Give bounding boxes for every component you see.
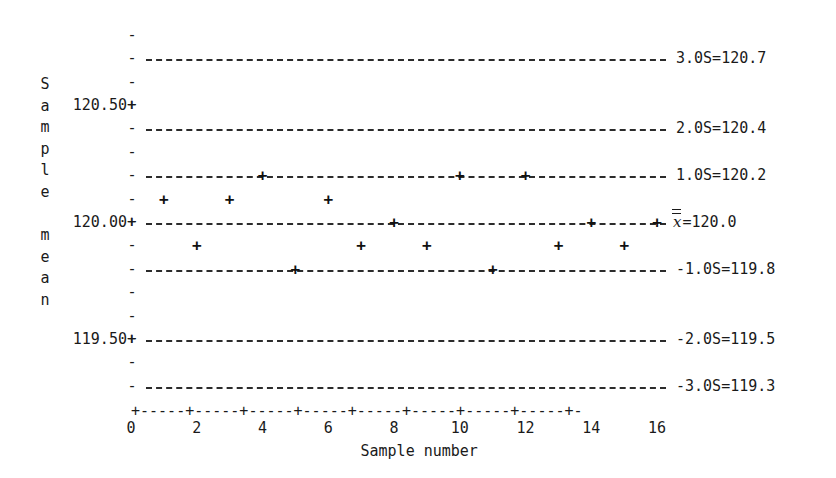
x-double-bar-symbol: x	[672, 215, 682, 230]
y-axis-title-char: e	[34, 247, 56, 269]
x-axis-tick-label: 0	[119, 421, 143, 436]
y-axis-minor-tick: -	[126, 192, 138, 207]
x-axis-title: Sample number	[0, 444, 836, 459]
limit-line-minus-1-sigma	[146, 270, 666, 274]
limit-label-plus-2-sigma: 2.0S=120.4	[676, 121, 766, 136]
data-point: +	[289, 262, 301, 278]
x-axis-tick-label: 2	[185, 421, 209, 436]
limit-line-minus-3-sigma	[146, 387, 666, 391]
data-point: +	[257, 168, 269, 184]
x-axis-tick-label: 10	[448, 421, 472, 436]
y-axis-title-char: m	[34, 117, 56, 139]
y-axis-title-char: l	[34, 160, 56, 182]
y-axis-tick-label: 120.50+	[66, 98, 136, 113]
y-axis-title-char: p	[34, 139, 56, 161]
y-axis-minor-tick: -	[126, 145, 138, 160]
data-point: +	[487, 262, 499, 278]
y-axis-minor-tick: -	[126, 309, 138, 324]
y-axis-title-char: S	[34, 74, 56, 96]
y-axis-minor-tick: -	[126, 355, 138, 370]
x-axis-tick-label: 14	[579, 421, 603, 436]
y-axis-title-char: m	[34, 225, 56, 247]
data-point: +	[585, 215, 597, 231]
y-axis-minor-tick: -	[126, 75, 138, 90]
x-axis-tick-label: 4	[251, 421, 275, 436]
x-axis-line: +-----+-----+-----+-----+-----+-----+---…	[131, 404, 583, 419]
y-axis-minor-tick: -	[126, 28, 138, 43]
limit-line-plus-1-sigma	[146, 176, 666, 180]
limit-label-minus-1-sigma: -1.0S=119.8	[676, 262, 775, 277]
y-axis-title-char: a	[34, 96, 56, 118]
limit-line-plus-3-sigma	[146, 59, 666, 63]
x-axis-tick-label: 12	[514, 421, 538, 436]
data-point: +	[421, 238, 433, 254]
data-point: +	[388, 215, 400, 231]
data-point: +	[552, 238, 564, 254]
control-chart: Sample mean ---+----+----+-- 120.50+120.…	[0, 0, 836, 478]
data-point: +	[158, 192, 170, 208]
y-axis-title-char	[34, 204, 56, 226]
limit-label-plus-3-sigma: 3.0S=120.7	[676, 51, 766, 66]
data-point: +	[618, 238, 630, 254]
limit-label-plus-1-sigma: 1.0S=120.2	[676, 168, 766, 183]
y-axis-title-char: e	[34, 182, 56, 204]
y-axis-minor-tick: -	[126, 379, 138, 394]
y-axis-minor-tick: -	[126, 168, 138, 183]
data-point: +	[322, 192, 334, 208]
limit-label-minus-3-sigma: -3.0S=119.3	[676, 379, 775, 394]
y-axis-minor-tick: -	[126, 238, 138, 253]
limit-label-text: =120.0	[682, 213, 736, 231]
data-point: +	[191, 238, 203, 254]
y-axis-title-char: n	[34, 290, 56, 312]
y-axis-title: Sample mean	[34, 74, 56, 312]
data-point: +	[454, 168, 466, 184]
limit-label-center-line: x=120.0	[672, 215, 737, 230]
data-point: +	[224, 192, 236, 208]
y-axis-minor-tick: -	[126, 121, 138, 136]
limit-line-minus-2-sigma	[146, 340, 666, 344]
data-point: +	[355, 238, 367, 254]
x-axis-tick-label: 16	[645, 421, 669, 436]
limit-label-minus-2-sigma: -2.0S=119.5	[676, 332, 775, 347]
data-point: +	[651, 215, 663, 231]
y-axis-minor-tick: -	[126, 285, 138, 300]
y-axis-minor-tick: -	[126, 51, 138, 66]
y-axis-title-char: a	[34, 268, 56, 290]
x-axis-tick-label: 8	[382, 421, 406, 436]
data-point: +	[520, 168, 532, 184]
y-axis-tick-label: 119.50+	[66, 332, 136, 347]
x-axis-tick-label: 6	[316, 421, 340, 436]
limit-line-plus-2-sigma	[146, 129, 666, 133]
y-axis-tick-label: 120.00+	[66, 215, 136, 230]
y-axis-minor-tick: -	[126, 262, 138, 277]
